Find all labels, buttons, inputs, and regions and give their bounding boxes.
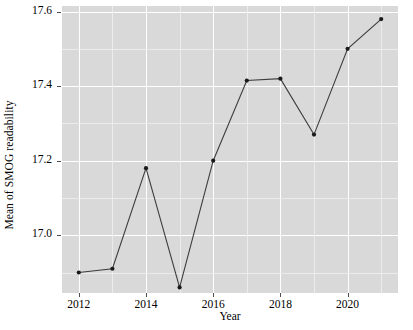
data-point [379, 17, 383, 21]
x-tick-label: 2018 [260, 298, 300, 310]
y-tick-mark [57, 235, 61, 236]
x-axis-title: Year [62, 310, 398, 326]
data-point [144, 166, 148, 170]
data-point [312, 132, 316, 136]
plot-panel [62, 6, 398, 293]
series-line-layer [62, 6, 398, 293]
data-point [346, 47, 350, 51]
x-tick-mark [146, 293, 147, 297]
y-tick-mark [57, 161, 61, 162]
y-tick-label: 17.0 [32, 227, 52, 239]
y-tick-mark [57, 12, 61, 13]
y-axis-title: Mean of SMOG readability [0, 0, 18, 330]
data-point [110, 267, 114, 271]
x-tick-mark [79, 293, 80, 297]
y-tick-mark [57, 86, 61, 87]
x-tick-label: 2016 [193, 298, 233, 310]
data-point [211, 159, 215, 163]
data-point [77, 270, 81, 274]
x-tick-label: 2014 [126, 298, 166, 310]
data-point [245, 78, 249, 82]
smog-readability-line-chart: Mean of SMOG readability 17.017.217.417.… [0, 0, 413, 330]
data-point [178, 285, 182, 289]
x-tick-label: 2012 [59, 298, 99, 310]
x-tick-mark [348, 293, 349, 297]
series-line [79, 19, 381, 287]
x-tick-label: 2020 [328, 298, 368, 310]
x-tick-mark [280, 293, 281, 297]
data-point [278, 77, 282, 81]
y-tick-label: 17.4 [32, 78, 52, 90]
x-tick-mark [213, 293, 214, 297]
y-tick-label: 17.2 [32, 153, 52, 165]
y-tick-label: 17.6 [32, 4, 52, 16]
